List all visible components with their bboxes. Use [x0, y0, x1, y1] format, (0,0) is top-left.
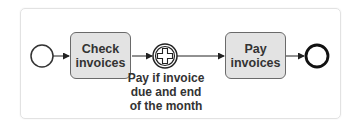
event-label: Pay if invoice due and end of the month: [120, 71, 212, 113]
parallel-multiple-event-icon[interactable]: [153, 44, 177, 68]
start-event[interactable]: [31, 45, 53, 67]
task-pay-invoices[interactable]: Pay invoices: [225, 32, 286, 79]
end-event[interactable]: [306, 45, 328, 67]
